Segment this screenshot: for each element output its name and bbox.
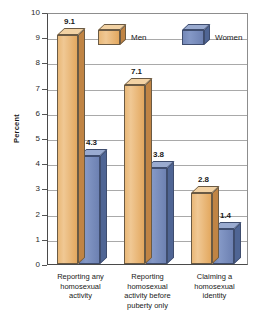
category-label-line: Reporting any: [45, 272, 117, 282]
bar-men-1: [124, 85, 145, 264]
legend-cube-front-face: [98, 30, 120, 45]
legend-cube-front-face: [182, 30, 204, 45]
bar-men-0: [57, 35, 78, 264]
y-tick-label: 1: [20, 236, 40, 244]
category-label-line: Claiming a: [179, 272, 251, 282]
y-tick-label: 2: [20, 211, 40, 219]
bar-front-face: [124, 85, 145, 264]
y-tick-label: 7: [20, 85, 40, 93]
bar-side-face: [100, 149, 107, 264]
bar-men-2: [191, 193, 212, 264]
category-label-2: Claiming ahomosexualidentity: [179, 272, 251, 301]
category-label-line: activity: [45, 291, 117, 301]
plot-area: [47, 13, 248, 265]
bar-side-face: [212, 187, 219, 264]
category-label-0: Reporting anyhomosexualactivity: [45, 272, 117, 301]
legend-label: Women: [215, 33, 242, 42]
category-label-1: Reportinghomosexualactivity beforepubert…: [112, 272, 184, 310]
y-tick-label: 8: [20, 59, 40, 67]
y-axis-title: Percent: [12, 99, 21, 159]
legend-label: Men: [131, 33, 147, 42]
category-label-line: Reporting: [112, 272, 184, 282]
y-tick-label: 10: [20, 9, 40, 17]
category-label-line: homosexual: [112, 282, 184, 292]
y-tick-label: 0: [20, 261, 40, 269]
value-label: 2.8: [185, 176, 223, 184]
value-label: 9.1: [51, 18, 89, 26]
y-tick-mark: [42, 265, 47, 266]
category-label-line: puberty only: [112, 301, 184, 311]
category-label-line: identity: [179, 291, 251, 301]
bar-chart: Percent 109876543210 9.14.37.13.82.81.4 …: [0, 0, 260, 324]
category-label-line: homosexual: [179, 282, 251, 292]
category-label-line: homosexual: [45, 282, 117, 292]
bar-front-face: [57, 35, 78, 264]
y-tick-label: 9: [20, 34, 40, 42]
y-tick-label: 4: [20, 160, 40, 168]
bar-side-face: [145, 79, 152, 264]
y-tick-label: 6: [20, 110, 40, 118]
bar-side-face: [78, 28, 85, 264]
cube-blue-icon: [182, 30, 204, 45]
bar-front-face: [191, 193, 212, 264]
y-tick-label: 5: [20, 135, 40, 143]
cube-orange-icon: [98, 30, 120, 45]
value-label: 7.1: [118, 68, 156, 76]
bar-side-face: [167, 162, 174, 264]
y-tick-label: 3: [20, 185, 40, 193]
category-label-line: activity before: [112, 291, 184, 301]
